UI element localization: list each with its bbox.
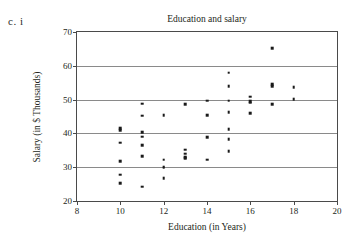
data-point (119, 129, 122, 132)
data-point (184, 152, 187, 155)
data-point (141, 131, 144, 134)
y-axis-title: Salary (in $ Thousands) (30, 31, 44, 202)
x-axis-tick (77, 201, 78, 205)
data-point (206, 136, 209, 139)
y-axis-tick-label: 60 (63, 61, 72, 71)
data-point (119, 142, 122, 145)
x-axis-tick-label: 16 (246, 206, 255, 216)
y-axis-tick (73, 66, 77, 67)
data-point (141, 144, 144, 147)
x-axis-tick-label: 20 (333, 206, 342, 216)
figure-part-label: c. i (8, 15, 23, 27)
data-point (249, 112, 252, 115)
y-axis-tick-label: 20 (63, 196, 72, 206)
data-point (119, 160, 122, 163)
data-point (227, 71, 230, 74)
gridline (77, 66, 337, 67)
y-axis-tick (73, 167, 77, 168)
y-axis-tick (73, 133, 77, 134)
data-point (141, 115, 144, 118)
x-axis-tick-label: 10 (116, 206, 125, 216)
x-axis-tick (120, 201, 121, 205)
data-point (249, 101, 252, 104)
data-point (119, 173, 122, 176)
y-axis-tick (73, 32, 77, 33)
data-point (227, 85, 230, 88)
x-axis-tick (337, 201, 338, 205)
data-point (184, 148, 187, 151)
x-axis-tick-label: 12 (159, 206, 168, 216)
data-point (227, 99, 230, 102)
gridline (77, 133, 337, 134)
data-point (249, 96, 252, 99)
data-point (162, 177, 165, 180)
data-point (227, 150, 230, 153)
y-axis-tick-label: 40 (63, 128, 72, 138)
data-point (184, 157, 187, 160)
x-axis-tick (294, 201, 295, 205)
y-axis-tick (73, 100, 77, 101)
data-point (119, 182, 122, 185)
y-axis-tick-label: 70 (63, 27, 72, 37)
gridline (77, 167, 337, 168)
y-axis-tick-label: 50 (63, 95, 72, 105)
x-axis-tick (250, 201, 251, 205)
data-point (292, 86, 295, 89)
x-axis-tick-label: 14 (203, 206, 212, 216)
y-axis-title-text: Salary (in $ Thousands) (32, 71, 42, 162)
x-axis-tick (164, 201, 165, 205)
data-point (141, 135, 144, 138)
data-point (271, 47, 274, 50)
data-point (271, 103, 274, 106)
data-point (162, 114, 165, 117)
x-axis-tick-label: 8 (75, 206, 80, 216)
data-point (227, 138, 230, 141)
x-axis-title: Education (in Years) (76, 222, 338, 232)
data-point (292, 98, 295, 101)
data-point (206, 114, 209, 117)
data-point (227, 111, 230, 114)
data-point (227, 128, 230, 131)
data-point (141, 186, 144, 189)
data-point (141, 155, 144, 158)
chart-title: Education and salary (76, 14, 338, 24)
data-point (271, 85, 274, 88)
x-axis-tick-label: 18 (289, 206, 298, 216)
data-point (206, 158, 209, 161)
x-axis-tick (207, 201, 208, 205)
data-point (162, 158, 165, 161)
data-point (162, 167, 165, 170)
y-axis-tick-label: 30 (63, 162, 72, 172)
data-point (184, 103, 187, 106)
data-point (141, 102, 144, 105)
data-point (206, 99, 209, 102)
scatter-plot-area: 203040506070 8101214161820 (76, 31, 338, 202)
